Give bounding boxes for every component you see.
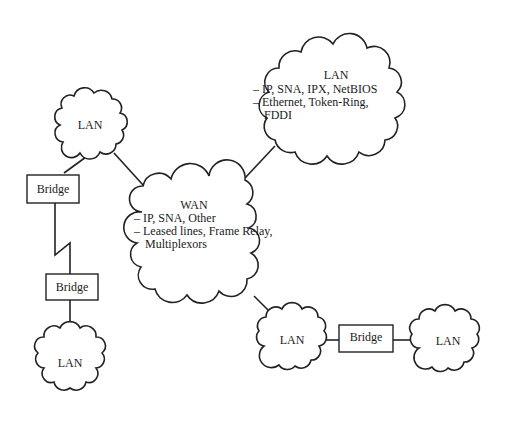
lan-bottom-middle-title: LAN bbox=[280, 334, 305, 347]
lan-bottom-right-title: LAN bbox=[436, 335, 461, 348]
lan-top-right-title: LAN bbox=[324, 69, 349, 82]
serial-link-zigzag bbox=[55, 203, 70, 277]
lan-bottom-left-title: LAN bbox=[58, 357, 83, 370]
wan-item-links-cont: Multiplexors bbox=[134, 238, 273, 251]
bridge-left-upper-label: Bridge bbox=[37, 183, 70, 196]
wan-details: – IP, SNA, Other – Leased lines, Frame R… bbox=[134, 212, 273, 251]
link-lan-topleft-bridge bbox=[64, 157, 86, 173]
link-lan-topleft-wan bbox=[114, 153, 143, 185]
bridge-bottom-label: Bridge bbox=[350, 331, 383, 344]
bridge-left-lower-label: Bridge bbox=[56, 281, 89, 294]
link-wan-lan-topright bbox=[245, 146, 275, 178]
lan-top-left-title: LAN bbox=[78, 119, 103, 132]
lan-top-right-details: – IP, SNA, IPX, NetBIOS – Ethernet, Toke… bbox=[253, 83, 377, 122]
lan-top-right-item-media-cont: FDDI bbox=[253, 109, 377, 122]
